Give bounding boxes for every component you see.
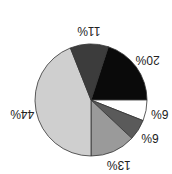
pie-label: 44% [10, 107, 34, 121]
pie-label: 6% [151, 107, 169, 121]
pie-label: 13% [106, 158, 130, 172]
pie-chart: 20%6%6%13%44%11% [0, 0, 172, 174]
pie-label: 11% [77, 24, 100, 38]
pie-label: 20% [135, 53, 159, 67]
pie-slices [35, 44, 147, 156]
pie-label: 6% [141, 131, 159, 145]
